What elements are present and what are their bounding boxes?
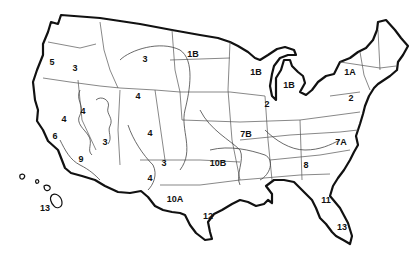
zone-label: 4 bbox=[135, 91, 140, 101]
zone-label: 13 bbox=[337, 222, 347, 232]
zone-label: 3 bbox=[142, 54, 147, 64]
zone-label: 12 bbox=[203, 211, 213, 221]
zone-label: 3 bbox=[102, 137, 107, 147]
zone-label: 10B bbox=[210, 158, 227, 168]
zone-label: 1A bbox=[344, 67, 356, 77]
zone-label: 1B bbox=[187, 49, 199, 59]
zone-label: 2 bbox=[264, 99, 269, 109]
zone-label: 4 bbox=[147, 173, 152, 183]
zone-label: 11 bbox=[321, 195, 331, 205]
zone-label: 6 bbox=[52, 131, 57, 141]
zone-label: 10A bbox=[167, 194, 184, 204]
zone-label: 1B bbox=[283, 80, 295, 90]
zone-label: 3 bbox=[72, 63, 77, 73]
zone-label: 8 bbox=[303, 160, 308, 170]
us-outline bbox=[33, 15, 408, 244]
zone-label: 4 bbox=[61, 114, 66, 124]
zone-label: 13 bbox=[40, 203, 50, 213]
zone-label: 7A bbox=[335, 137, 347, 147]
zone-label: 5 bbox=[49, 57, 54, 67]
zone-boundaries bbox=[60, 46, 340, 190]
zone-label: 1B bbox=[250, 67, 262, 77]
zone-label: 2 bbox=[348, 93, 353, 103]
zone-label: 4 bbox=[147, 128, 152, 138]
zone-label: 9 bbox=[78, 154, 83, 164]
zone-label: 4 bbox=[80, 106, 85, 116]
zone-label: 3 bbox=[161, 158, 166, 168]
us-zone-map bbox=[0, 0, 414, 260]
zone-label: 7B bbox=[240, 129, 252, 139]
